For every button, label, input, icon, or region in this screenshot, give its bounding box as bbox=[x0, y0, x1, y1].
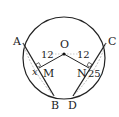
geometry-diagram: O A C B D M N 12 12 x 25 bbox=[0, 0, 119, 117]
label-nc-length: 25 bbox=[88, 68, 101, 79]
label-n: N bbox=[77, 67, 87, 80]
label-om-length: 12 bbox=[41, 49, 54, 60]
label-o: O bbox=[60, 38, 69, 51]
label-m: M bbox=[43, 67, 54, 80]
label-c: C bbox=[108, 35, 116, 48]
center-point bbox=[62, 52, 65, 55]
label-d: D bbox=[68, 99, 77, 112]
label-a: A bbox=[12, 35, 22, 48]
circle bbox=[23, 17, 105, 99]
label-on-length: 12 bbox=[77, 49, 90, 60]
label-b: B bbox=[51, 99, 59, 112]
label-x: x bbox=[32, 66, 38, 77]
